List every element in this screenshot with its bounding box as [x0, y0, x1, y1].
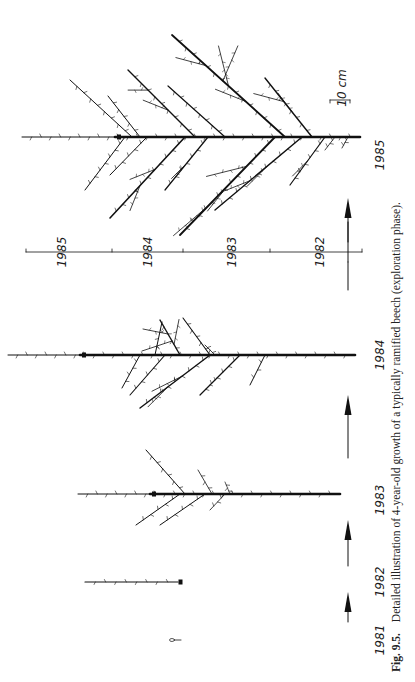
- twig: [169, 180, 170, 183]
- twig: [153, 368, 156, 369]
- twig: [162, 102, 165, 103]
- twig: [222, 369, 223, 372]
- twig: [199, 343, 201, 346]
- twig: [252, 375, 254, 378]
- twig: [135, 385, 136, 388]
- twig: [230, 198, 233, 199]
- twig: [218, 199, 221, 200]
- twig: [202, 357, 203, 360]
- twig: [104, 112, 105, 115]
- twig: [199, 114, 200, 117]
- twig: [154, 97, 155, 100]
- twig: [186, 103, 187, 106]
- axis-label-1983: 1983: [225, 237, 239, 268]
- stage-label-1985: 1985: [373, 140, 387, 171]
- twig: [172, 496, 173, 499]
- twig: [190, 504, 193, 506]
- twig: [276, 98, 278, 100]
- twig: [175, 338, 177, 340]
- twig: [257, 176, 260, 177]
- twig: [244, 186, 247, 187]
- twig: [157, 506, 158, 509]
- arrow-1981-1982: [345, 592, 352, 612]
- twig: [190, 154, 191, 157]
- twig: [229, 366, 232, 367]
- twig: [181, 124, 182, 127]
- twig: [326, 144, 327, 147]
- twig: [307, 130, 310, 131]
- twig: [217, 378, 220, 379]
- twig: [182, 376, 185, 377]
- twig: [127, 153, 128, 156]
- twig: [127, 372, 129, 375]
- twig: [162, 106, 164, 108]
- twig: [215, 174, 217, 176]
- twig: [238, 96, 240, 98]
- twig: [197, 150, 200, 151]
- twig: [188, 368, 189, 371]
- twig: [296, 117, 299, 118]
- twig: [202, 208, 203, 211]
- twig: [218, 54, 220, 56]
- twig: [265, 164, 266, 167]
- twig: [135, 76, 138, 77]
- twig: [288, 149, 291, 150]
- twig: [113, 102, 116, 103]
- twig: [190, 218, 191, 221]
- twig: [173, 92, 174, 95]
- twig: [211, 126, 212, 129]
- branch: [160, 320, 180, 355]
- twig: [158, 359, 159, 362]
- twig: [122, 162, 125, 163]
- twig: [203, 482, 205, 485]
- twig: [220, 495, 221, 498]
- twig: [165, 504, 168, 506]
- twig: [179, 228, 180, 231]
- twig: [111, 117, 114, 118]
- caption-label: Fig. 9.5.: [390, 633, 403, 672]
- twig: [161, 469, 162, 472]
- twig: [176, 177, 179, 178]
- twig: [168, 474, 171, 475]
- twig: [187, 164, 190, 165]
- twig: [125, 129, 128, 130]
- twig: [222, 70, 224, 72]
- branch: [122, 355, 140, 388]
- twig: [109, 154, 110, 157]
- twig: [190, 330, 192, 333]
- sub-branch: [293, 161, 308, 176]
- sub-branch: [205, 375, 220, 390]
- twig: [76, 86, 77, 89]
- twig: [98, 104, 101, 105]
- twig: [140, 83, 141, 86]
- twig: [181, 166, 182, 169]
- twig: [179, 487, 182, 488]
- twig: [294, 140, 295, 143]
- twig: [273, 161, 276, 162]
- twig: [162, 327, 164, 330]
- twig: [269, 85, 270, 88]
- twig: [168, 387, 171, 388]
- twig: [282, 98, 285, 99]
- twig: [117, 124, 118, 127]
- twig: [300, 124, 301, 127]
- axis-label-1982: 1982: [313, 237, 327, 268]
- twig: [188, 129, 191, 130]
- twig: [117, 110, 118, 113]
- twig: [197, 336, 200, 337]
- twig: [146, 372, 147, 375]
- arrow-1984-1985: [345, 198, 352, 218]
- twig: [302, 163, 303, 166]
- twig: [233, 358, 234, 361]
- twig: [250, 176, 251, 179]
- tree-1981-bud-tip: [170, 639, 175, 642]
- twig: [342, 142, 344, 145]
- twig: [105, 164, 108, 165]
- twig: [95, 177, 98, 178]
- tree-1985-base: [117, 135, 121, 140]
- twig: [140, 140, 141, 143]
- twig: [232, 60, 234, 62]
- twig: [142, 382, 145, 383]
- twig: [99, 167, 100, 170]
- twig: [330, 144, 333, 145]
